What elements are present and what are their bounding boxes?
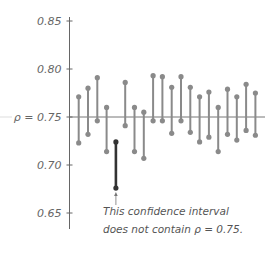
upper-endpoint <box>197 94 202 99</box>
lower-endpoint <box>76 140 81 145</box>
annotation: This confidence interval does not contai… <box>103 192 243 235</box>
interval <box>178 74 183 123</box>
lower-endpoint <box>253 133 258 138</box>
upper-endpoint <box>76 94 81 99</box>
upper-endpoint <box>160 74 165 79</box>
upper-endpoint <box>151 73 156 78</box>
upper-endpoint <box>123 80 128 85</box>
lower-endpoint <box>169 131 174 136</box>
upper-endpoint <box>206 89 211 94</box>
annotation-line-1: This confidence interval <box>103 205 229 217</box>
lower-endpoint <box>151 118 156 123</box>
y-tick-label: ρ = 0.75 <box>14 111 62 124</box>
interval <box>244 82 249 133</box>
lower-endpoint <box>197 139 202 144</box>
confidence-interval-chart: 0.850.80ρ = 0.750.700.65 This confidence… <box>0 0 273 254</box>
upper-endpoint <box>113 139 118 144</box>
lower-endpoint <box>206 135 211 140</box>
arrowhead-icon <box>114 192 118 196</box>
interval <box>206 89 211 139</box>
y-tick-label: 0.65 <box>37 207 62 220</box>
upper-endpoint <box>132 105 137 110</box>
interval <box>188 85 193 135</box>
lower-endpoint <box>160 118 165 123</box>
y-tick-label: 0.70 <box>37 159 62 172</box>
interval <box>132 105 137 154</box>
intervals <box>76 73 258 191</box>
lower-endpoint <box>188 130 193 135</box>
upper-endpoint <box>178 74 183 79</box>
interval <box>197 94 202 144</box>
annotation-line-2: does not contain ρ = 0.75. <box>103 223 243 235</box>
interval <box>151 73 156 123</box>
interval <box>225 87 230 137</box>
interval <box>104 105 109 154</box>
upper-endpoint <box>85 86 90 91</box>
y-tick-label: 0.85 <box>37 15 62 28</box>
upper-endpoint <box>253 90 258 95</box>
interval <box>160 74 165 123</box>
lower-endpoint <box>244 128 249 133</box>
upper-endpoint <box>244 82 249 87</box>
y-axis: 0.850.80ρ = 0.750.700.65 <box>14 15 73 229</box>
interval <box>234 94 239 142</box>
upper-endpoint <box>104 105 109 110</box>
upper-endpoint <box>188 85 193 90</box>
y-tick-label: 0.80 <box>37 63 62 76</box>
interval <box>169 85 174 136</box>
lower-endpoint <box>85 132 90 137</box>
upper-endpoint <box>225 87 230 92</box>
lower-endpoint <box>216 149 221 154</box>
lower-endpoint <box>178 118 183 123</box>
upper-endpoint <box>216 105 221 110</box>
upper-endpoint <box>169 85 174 90</box>
lower-endpoint <box>225 132 230 137</box>
highlighted-interval <box>113 139 118 190</box>
upper-endpoint <box>141 110 146 115</box>
interval <box>123 80 128 128</box>
interval <box>253 90 258 137</box>
lower-endpoint <box>141 156 146 161</box>
lower-endpoint <box>123 123 128 128</box>
interval <box>85 86 90 137</box>
lower-endpoint <box>132 149 137 154</box>
interval <box>95 75 100 123</box>
lower-endpoint <box>104 149 109 154</box>
upper-endpoint <box>234 94 239 99</box>
lower-endpoint <box>95 118 100 123</box>
upper-endpoint <box>95 75 100 80</box>
interval <box>76 94 81 145</box>
lower-endpoint <box>234 137 239 142</box>
lower-endpoint <box>113 185 118 190</box>
interval <box>216 105 221 154</box>
